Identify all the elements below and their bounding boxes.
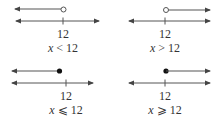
variable: x [48,41,53,55]
rhs-value: 12 [66,41,78,55]
inequality-label: x ⩾ 12 [148,104,181,116]
rhs-value: 12 [170,103,182,117]
number-line-x-greater-than-12 [129,8,210,25]
open-endpoint [61,7,66,12]
variable: x [150,41,155,55]
operator: ⩽ [58,103,68,117]
operator: ⩾ [157,103,167,117]
rhs-value: 12 [168,41,180,55]
number-line-x-less-or-equal-12 [12,68,93,86]
tick-label: 12 [60,90,72,102]
number-line-x-less-than-12 [15,7,99,25]
inequality-label: x ⩽ 12 [49,104,82,116]
number-line-x-greater-or-equal-12 [129,68,210,86]
variable: x [148,103,153,117]
operator: < [56,41,63,55]
number-lines-diagram [0,0,221,122]
tick-label: 12 [159,28,171,40]
variable: x [49,103,54,117]
inequality-label: x > 12 [150,42,180,54]
tick-label: 12 [159,90,171,102]
closed-endpoint [57,68,62,73]
operator: > [158,41,165,55]
open-endpoint [164,8,169,13]
tick-label: 12 [57,28,69,40]
rhs-value: 12 [71,103,83,117]
inequality-label: x < 12 [48,42,78,54]
